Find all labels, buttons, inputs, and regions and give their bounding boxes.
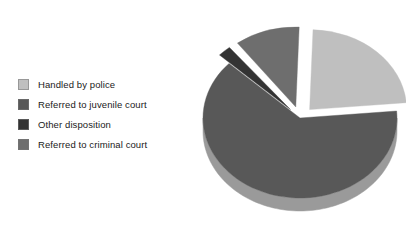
- legend-item-referred-to-juvenile-court[interactable]: Referred to juvenile court: [18, 94, 188, 114]
- legend-item-handled-by-police[interactable]: Handled by police: [18, 74, 188, 94]
- legend-item-label: Referred to juvenile court: [38, 99, 147, 110]
- legend-item-label: Handled by police: [38, 79, 115, 90]
- pie-svg: [186, 0, 406, 234]
- legend-swatch-icon: [18, 79, 29, 90]
- legend-swatch-icon: [18, 99, 29, 110]
- legend-swatch-icon: [18, 139, 29, 150]
- pie-plot-area: [186, 0, 406, 234]
- legend-item-other-disposition[interactable]: Other disposition: [18, 114, 188, 134]
- chart-legend: Handled by police Referred to juvenile c…: [18, 74, 188, 154]
- legend-item-label: Other disposition: [38, 119, 111, 130]
- pie-chart-figure: Handled by police Referred to juvenile c…: [0, 0, 406, 234]
- legend-item-referred-to-criminal-court[interactable]: Referred to criminal court: [18, 134, 188, 154]
- legend-item-label: Referred to criminal court: [38, 139, 147, 150]
- legend-swatch-icon: [18, 119, 29, 130]
